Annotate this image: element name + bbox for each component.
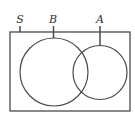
set-b-label: B	[48, 13, 57, 26]
universe-rectangle	[10, 32, 130, 111]
set-a-circle	[73, 46, 127, 100]
universe-label: S	[16, 13, 24, 26]
set-b-circle	[20, 38, 88, 106]
venn-diagram: S B A	[0, 0, 135, 123]
set-a-label: A	[95, 13, 104, 26]
